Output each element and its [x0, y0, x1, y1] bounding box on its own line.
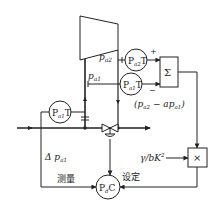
plus-sign: + [150, 47, 157, 56]
svg-text:Σ: Σ [164, 67, 171, 78]
inlet-flow-arrow [83, 97, 87, 101]
main-outlet-arrow [145, 126, 151, 131]
pa1-transmitter-left: Pa1T [49, 101, 71, 123]
delta-p-label: Δ pa1 [44, 152, 67, 163]
antisurge-valve [102, 124, 118, 137]
outlet-flow-arrow [116, 100, 120, 104]
pd-controller: PdC [96, 175, 120, 199]
setpoint-label: 设定 [122, 171, 140, 182]
gain-label: γ/bK2 [140, 152, 165, 163]
pa1-transmitter-right: Pa1T [120, 73, 142, 95]
multiplier-block: × [188, 148, 207, 167]
difference-expression: (pa2 − apa1) [134, 99, 185, 110]
svg-text:×: × [193, 152, 201, 163]
minus-sign: − [149, 86, 156, 95]
pa2-transmitter: Pa2T [125, 49, 147, 71]
surge-control-diagram: pa2 pa1 Pa2T + Pa1T − Σ (pa2 − apa1) × [0, 0, 221, 208]
main-inlet-arrow [28, 126, 33, 130]
junction-inlet [83, 126, 87, 130]
sum-to-multiplier [178, 72, 197, 148]
label-p-a1: pa1 [88, 71, 101, 82]
summer-block: Σ [160, 57, 178, 87]
measure-label: 测量 [57, 174, 75, 184]
